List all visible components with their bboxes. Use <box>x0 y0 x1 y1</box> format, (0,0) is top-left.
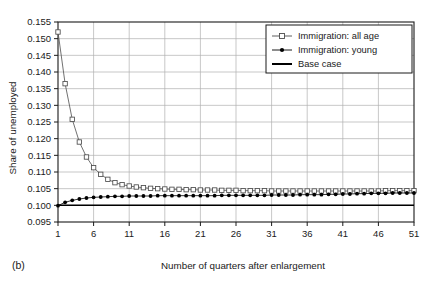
data-point-marker <box>277 189 281 193</box>
data-point-marker <box>391 191 395 195</box>
data-point-marker <box>255 188 259 192</box>
data-point-marker <box>63 81 67 85</box>
data-point-marker <box>120 182 124 186</box>
data-point-marker <box>120 194 124 198</box>
data-point-marker <box>320 193 324 197</box>
x-tick-label: 26 <box>231 228 242 239</box>
data-point-marker <box>384 191 388 195</box>
y-tick-label: 0.095 <box>27 216 51 227</box>
data-point-marker <box>84 155 88 159</box>
data-point-marker <box>163 194 167 198</box>
x-tick-label: 36 <box>302 228 313 239</box>
data-point-marker <box>77 197 81 201</box>
y-tick-label: 0.120 <box>27 133 51 144</box>
data-point-marker <box>241 188 245 192</box>
y-tick-label: 0.125 <box>27 116 51 127</box>
data-point-marker <box>170 187 174 191</box>
figure-panel-b: 0.0950.1000.1050.1100.1150.1200.1250.130… <box>0 0 426 283</box>
data-point-marker <box>213 194 217 198</box>
data-point-marker <box>191 187 195 191</box>
unemployment-share-line-chart: 0.0950.1000.1050.1100.1150.1200.1250.130… <box>0 0 426 283</box>
data-point-marker <box>319 189 323 193</box>
x-axis-title: Number of quarters after enlargement <box>161 260 325 271</box>
x-tick-label: 46 <box>373 228 384 239</box>
y-tick-label: 0.150 <box>27 33 51 44</box>
y-tick-label: 0.110 <box>28 166 51 177</box>
data-point-marker <box>298 189 302 193</box>
data-point-marker <box>305 193 309 197</box>
panel-label: (b) <box>12 259 25 271</box>
data-point-marker <box>113 194 117 198</box>
y-axis-title: Share of unemployed <box>7 81 18 174</box>
data-point-marker <box>348 192 352 196</box>
data-point-marker <box>212 188 216 192</box>
data-point-marker <box>155 186 159 190</box>
data-point-marker <box>234 193 238 197</box>
data-point-marker <box>149 194 153 198</box>
data-point-marker <box>277 193 281 197</box>
y-tick-label: 0.105 <box>27 183 51 194</box>
data-point-marker <box>355 192 359 196</box>
data-point-marker <box>99 172 103 176</box>
data-point-marker <box>191 194 195 198</box>
legend-label: Immigration: young <box>298 45 377 55</box>
data-point-marker <box>412 191 416 195</box>
data-point-marker <box>77 140 81 144</box>
data-point-marker <box>70 117 74 121</box>
data-point-marker <box>291 193 295 197</box>
data-point-marker <box>405 191 409 195</box>
y-tick-label: 0.140 <box>27 66 51 77</box>
data-point-marker <box>369 191 373 195</box>
x-tick-label: 41 <box>338 228 349 239</box>
data-point-marker <box>91 165 95 169</box>
legend-marker-filled-circle <box>280 48 284 52</box>
x-tick-label: 11 <box>124 228 134 239</box>
legend-marker-open-square <box>280 34 285 39</box>
data-point-marker <box>127 194 131 198</box>
x-tick-label: 51 <box>409 228 420 239</box>
data-point-marker <box>305 189 309 193</box>
data-point-marker <box>241 193 245 197</box>
data-point-marker <box>262 188 266 192</box>
data-point-marker <box>398 191 402 195</box>
x-tick-label: 6 <box>91 228 96 239</box>
data-point-marker <box>220 193 224 197</box>
x-tick-label: 16 <box>160 228 171 239</box>
data-point-marker <box>134 185 138 189</box>
data-point-marker <box>263 193 267 197</box>
data-point-marker <box>199 194 203 198</box>
data-point-marker <box>284 193 288 197</box>
data-point-marker <box>106 195 110 199</box>
data-point-marker <box>141 185 145 189</box>
y-tick-label: 0.130 <box>27 100 51 111</box>
data-point-marker <box>113 180 117 184</box>
data-point-marker <box>270 193 274 197</box>
data-point-marker <box>177 187 181 191</box>
data-point-marker <box>156 194 160 198</box>
data-point-marker <box>269 189 273 193</box>
data-point-marker <box>298 193 302 197</box>
data-point-marker <box>248 193 252 197</box>
data-point-marker <box>127 184 131 188</box>
y-tick-label: 0.115 <box>28 150 51 161</box>
data-point-marker <box>163 187 167 191</box>
chart-legend[interactable]: Immigration: all ageImmigration: youngBa… <box>266 25 412 73</box>
data-point-marker <box>312 193 316 197</box>
data-point-marker <box>99 195 103 199</box>
data-point-marker <box>148 186 152 190</box>
data-point-marker <box>334 192 338 196</box>
x-tick-label: 1 <box>55 228 60 239</box>
data-point-marker <box>206 194 210 198</box>
data-point-marker <box>198 188 202 192</box>
data-point-marker <box>255 193 259 197</box>
data-point-marker <box>92 195 96 199</box>
data-point-marker <box>312 189 316 193</box>
legend-label: Base case <box>298 59 341 69</box>
data-point-marker <box>177 194 181 198</box>
data-point-marker <box>220 188 224 192</box>
data-point-marker <box>142 194 146 198</box>
data-point-marker <box>227 188 231 192</box>
data-point-marker <box>362 192 366 196</box>
data-point-marker <box>63 200 67 204</box>
data-point-marker <box>234 188 238 192</box>
